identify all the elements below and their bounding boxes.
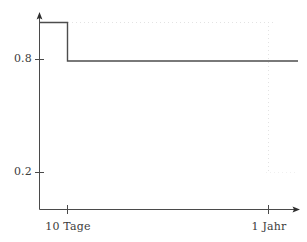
x-axis-tick-label-1-jahr: 1 Jahr [219,221,307,232]
step-function-chart: 0.8 0.2 10 Tage 1 Jahr [0,0,307,242]
chart-canvas [0,0,307,242]
y-axis-tick-label-0-2: 0.2 [4,166,32,177]
series-step-line [40,23,298,62]
x-axis-tick-label-10-tage: 10 Tage [18,221,118,232]
y-axis-tick-label-0-8: 0.8 [4,53,32,64]
